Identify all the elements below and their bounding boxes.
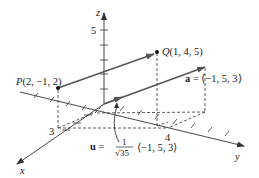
svg-text:u =: u = [90,141,104,152]
x-axis-label: x [19,165,25,176]
point-P-label: P(2, −1, 2) [15,76,62,88]
y-axis-label: y [234,151,240,162]
svg-text:√35: √35 [115,148,129,158]
vector-PQ [58,54,154,88]
svg-text:1: 1 [122,137,127,147]
vector-a-label: a = ⟨−1, 5, 3⟩ [185,73,242,84]
point-Q-label: Q(1, 4, 5) [162,46,203,58]
vector-u [104,97,122,104]
z-tick-label: 5 [91,25,96,36]
u-pointer [114,106,119,142]
z-axis-label: z [95,7,100,18]
y-axis [20,92,244,146]
vector-diagram: z 5 x 3 y 4 P(2, −1, 2) Q(1, 4, 5) a = ⟨… [0,0,259,178]
x-axis [17,104,104,164]
x-tick-label: 3 [49,126,54,137]
point-Q [155,50,159,54]
axes [17,13,244,164]
svg-text:⟨−1, 5, 3⟩: ⟨−1, 5, 3⟩ [137,142,177,153]
projection-lines [58,53,205,128]
